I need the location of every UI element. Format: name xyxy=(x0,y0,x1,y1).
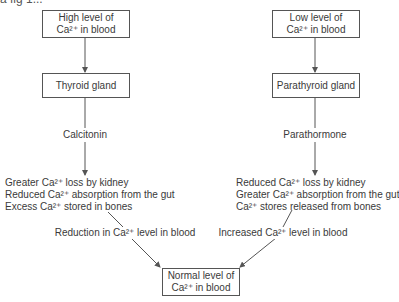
parathormone-effects: Reduced Ca²⁺ loss by kidney Greater Ca²⁺… xyxy=(236,177,399,213)
effect-item: Excess Ca²⁺ stored in bones xyxy=(5,201,175,213)
effect-item: Greater Ca²⁺ absorption from the gut xyxy=(236,189,399,201)
calcitonin-effects: Greater Ca²⁺ loss by kidney Reduced Ca²⁺… xyxy=(5,177,175,213)
thyroid-gland-box: Thyroid gland xyxy=(42,73,130,98)
high-calcium-box: High level of Ca²⁺ in blood xyxy=(42,10,130,38)
effect-item: Reduced Ca²⁺ loss by kidney xyxy=(236,177,399,189)
reduction-label: Reduction in Ca²⁺ level in blood xyxy=(53,227,198,239)
high-calcium-line1: High level of xyxy=(58,12,113,24)
low-calcium-line1: Low level of xyxy=(290,12,343,24)
thyroid-gland-label: Thyroid gland xyxy=(56,80,117,92)
normal-calcium-line1: Normal level of xyxy=(168,270,235,282)
parathyroid-gland-label: Parathyroid gland xyxy=(277,80,355,92)
calcitonin-label: Calcitonin xyxy=(63,129,107,141)
effect-item: Reduced Ca²⁺ absorption from the gut xyxy=(5,189,175,201)
parathormone-label: Parathormone xyxy=(283,129,346,141)
effect-item: Greater Ca²⁺ loss by kidney xyxy=(5,177,175,189)
increased-label: Increased Ca²⁺ level in blood xyxy=(217,227,350,239)
normal-calcium-box: Normal level of Ca²⁺ in blood xyxy=(162,268,240,296)
effect-item: Ca²⁺ stores released from bones xyxy=(236,201,399,213)
normal-calcium-line2: Ca²⁺ in blood xyxy=(172,282,231,294)
parathyroid-gland-box: Parathyroid gland xyxy=(272,73,360,98)
low-calcium-line2: Ca²⁺ in blood xyxy=(287,24,346,36)
high-calcium-line2: Ca²⁺ in blood xyxy=(57,24,116,36)
low-calcium-box: Low level of Ca²⁺ in blood xyxy=(272,10,360,38)
